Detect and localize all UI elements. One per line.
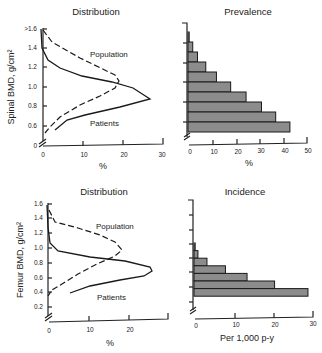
chart-title: Prevalence (224, 6, 272, 17)
x-axis-label: % (245, 158, 253, 168)
svg-text:1.6: 1.6 (34, 200, 43, 207)
x-axis (189, 137, 307, 145)
bar (188, 92, 246, 102)
chart-title: Distribution (80, 186, 128, 197)
svg-text:1.0: 1.0 (28, 83, 37, 90)
bar (188, 62, 206, 72)
x-axis (195, 311, 313, 319)
bar (194, 281, 275, 289)
svg-text:30: 30 (309, 320, 317, 327)
prevalence-bars (188, 32, 290, 132)
patients-label: Patients (90, 119, 119, 128)
svg-text:0.4: 0.4 (34, 288, 43, 295)
bar (194, 266, 225, 274)
patients-label: Patients (97, 293, 126, 302)
svg-text:20: 20 (126, 326, 134, 333)
svg-text:0: 0 (194, 322, 198, 329)
spinal-prevalence-chart: Prevalence 0 10 20 30 40 50 % (182, 6, 312, 168)
svg-text:0: 0 (33, 142, 37, 149)
patients-curve (41, 29, 150, 130)
svg-text:1.0: 1.0 (34, 244, 43, 251)
bar (188, 32, 189, 42)
svg-text:50: 50 (304, 147, 312, 154)
x-ticks: 0 10 20 (47, 315, 134, 334)
svg-text:0.2: 0.2 (34, 303, 43, 310)
svg-text:10: 10 (210, 148, 218, 155)
x-ticks: 0 10 20 30 (41, 140, 166, 158)
bar (194, 273, 247, 281)
figure: Distribution Spinal BMD, g/cm² >1.6 1.4 … (0, 0, 322, 353)
svg-text:20: 20 (271, 321, 279, 328)
svg-text:10: 10 (80, 151, 88, 158)
svg-text:10: 10 (86, 326, 94, 333)
bar (194, 251, 198, 259)
bar (194, 258, 207, 266)
y-axis-label: Spinal BMD, g/cm² (6, 49, 16, 124)
svg-text:>1.6: >1.6 (24, 25, 37, 32)
bar (188, 102, 261, 112)
bar (188, 42, 193, 52)
femur-incidence-chart: Incidence 0 10 20 30 Per 1,000 p-y (188, 186, 317, 343)
svg-text:1.4: 1.4 (34, 214, 43, 221)
patients-curve (47, 205, 152, 293)
x-ticks: 0 10 20 30 40 50 (188, 138, 312, 155)
bar (188, 82, 231, 92)
chart-title: Distribution (72, 6, 120, 17)
population-label: Population (90, 50, 128, 59)
svg-text:30: 30 (257, 147, 265, 154)
spinal-distribution-chart: Distribution Spinal BMD, g/cm² >1.6 1.4 … (6, 6, 166, 171)
svg-text:1.4: 1.4 (28, 44, 37, 51)
svg-text:40: 40 (281, 147, 289, 154)
svg-text:30: 30 (158, 151, 166, 158)
x-ticks: 0 10 20 30 (194, 313, 317, 329)
incidence-bars (194, 243, 308, 296)
bar (188, 122, 290, 132)
svg-text:0.8: 0.8 (34, 259, 43, 266)
svg-text:0: 0 (41, 151, 45, 158)
y-axis (182, 23, 187, 137)
svg-text:0.8: 0.8 (28, 102, 37, 109)
bar (188, 112, 276, 122)
population-label: Population (96, 222, 134, 231)
x-axis-label: % (99, 161, 107, 171)
x-axis-label: Per 1,000 p-y (220, 333, 275, 343)
bar (194, 243, 195, 251)
x-axis (43, 138, 163, 146)
svg-text:1.2: 1.2 (28, 63, 37, 70)
svg-text:0.6: 0.6 (28, 122, 37, 129)
y-axis-label: Femur BMD, g/cm² (15, 222, 25, 298)
femur-distribution-chart: Distribution Femur BMD, g/cm² 1.6 1.4 1.… (15, 186, 168, 348)
x-axis (49, 313, 168, 322)
svg-text:10: 10 (232, 321, 240, 328)
svg-text:1.2: 1.2 (34, 229, 43, 236)
bar (188, 52, 197, 62)
x-axis-label: % (106, 338, 114, 348)
svg-text:0: 0 (47, 327, 51, 334)
chart-title: Incidence (225, 186, 266, 197)
svg-text:0.6: 0.6 (34, 274, 43, 281)
svg-text:20: 20 (234, 148, 242, 155)
svg-text:20: 20 (120, 151, 128, 158)
svg-text:0: 0 (188, 148, 192, 155)
bar (188, 72, 216, 82)
y-axis (188, 200, 193, 310)
bar (194, 289, 308, 297)
